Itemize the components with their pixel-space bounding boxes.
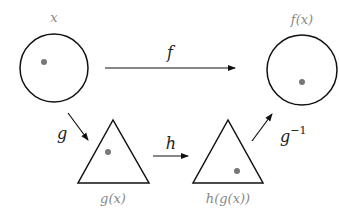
node-hgx: h(g(x)) bbox=[193, 120, 263, 206]
edge-label-g-inverse: g−1 bbox=[280, 124, 306, 146]
node-label-fx: f(x) bbox=[290, 12, 313, 27]
edge-label-f: f bbox=[166, 43, 176, 62]
edge-f: f bbox=[105, 43, 235, 68]
point-dot bbox=[41, 59, 47, 65]
edge-label-h: h bbox=[166, 134, 176, 153]
node-label-gx: g(x) bbox=[100, 191, 126, 206]
node-x: x bbox=[20, 10, 88, 102]
edge-h: h bbox=[153, 134, 188, 156]
point-dot bbox=[299, 79, 305, 85]
point-dot bbox=[234, 168, 240, 174]
edge-g-inverse: g−1 bbox=[252, 114, 306, 146]
edge-g: g bbox=[57, 113, 88, 143]
function-composition-diagram: x f(x) f g(x) h(g(x)) g h g−1 bbox=[0, 0, 339, 219]
node-fx: f(x) bbox=[267, 12, 337, 105]
point-dot bbox=[105, 149, 111, 155]
node-label-x: x bbox=[50, 10, 58, 25]
edge-label-g: g bbox=[57, 124, 67, 143]
node-gx: g(x) bbox=[78, 120, 149, 206]
node-label-hgx: h(g(x)) bbox=[206, 191, 250, 206]
